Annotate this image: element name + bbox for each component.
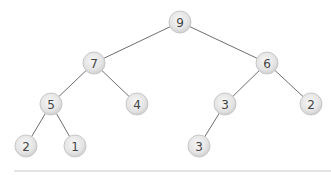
node-label: 9 [176, 16, 184, 30]
tree-node: 7 [83, 52, 105, 74]
node-label: 3 [195, 140, 203, 154]
tree-node: 9 [169, 11, 191, 33]
node-label: 6 [263, 57, 271, 71]
tree-edge [94, 22, 180, 63]
node-label: 2 [307, 98, 315, 112]
tree-node: 6 [256, 52, 278, 74]
node-label: 3 [221, 98, 229, 112]
tree-node: 3 [214, 93, 236, 115]
node-label: 2 [22, 140, 30, 154]
tree-node: 2 [15, 135, 37, 157]
node-label: 1 [71, 140, 79, 154]
tree-node: 5 [40, 93, 62, 115]
tree-node: 2 [300, 93, 322, 115]
node-label: 5 [47, 98, 55, 112]
nodes-layer: 9765432213 [15, 11, 322, 157]
node-label: 4 [133, 98, 141, 112]
tree-node: 3 [188, 135, 210, 157]
edges-layer [26, 22, 311, 146]
node-label: 7 [90, 57, 98, 71]
binary-tree-diagram: 9765432213 [0, 0, 331, 175]
tree-node: 1 [64, 135, 86, 157]
tree-node: 4 [126, 93, 148, 115]
tree-edge [180, 22, 267, 63]
